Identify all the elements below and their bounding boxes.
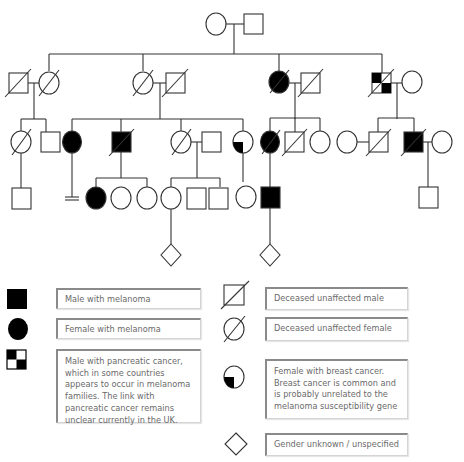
g4-5-female-unaffected [137, 187, 157, 209]
legend-label-female-melanoma: Female with melanoma [56, 318, 201, 339]
quarter-filled-circle-icon [222, 364, 248, 390]
filled-circle-icon [7, 317, 29, 341]
g2-8-female-unaffected [402, 71, 422, 93]
g4-1-male-unaffected [12, 188, 31, 209]
g4-7-male-unaffected [187, 188, 206, 209]
legend-label-breast-cancer: Female with breast cancer. Breast cancer… [265, 359, 408, 419]
g5-1-gender-unknown [161, 244, 181, 266]
g4-6-female-unaffected [161, 187, 181, 209]
g3-2-male-unaffected [41, 132, 60, 152]
generation-5 [161, 244, 280, 266]
checkered-square-icon [6, 349, 28, 371]
deceased-slash [133, 70, 153, 96]
legend-label-pancreatic-cancer: Male with pancreatic cancer, which in so… [56, 349, 201, 423]
legend-label-male-melanoma: Male with melanoma [56, 288, 201, 309]
generation-1 [206, 13, 263, 54]
g4-10-male-melanoma [261, 187, 280, 208]
g1-male-unaffected [244, 14, 263, 34]
g4-11-male-unaffected [419, 187, 438, 208]
legend-label-deceased-male: Deceased unaffected male [265, 287, 408, 310]
generation-3 [11, 129, 452, 187]
g3-10-female-unaffected [310, 131, 330, 153]
g3-14-female-unaffected [432, 131, 452, 153]
filled-square-icon [6, 288, 28, 310]
g4-8-male-unaffected [209, 188, 228, 209]
deceased-square-icon [220, 280, 250, 310]
g5-2-gender-unknown [260, 244, 280, 266]
g3-6-male-unaffected [202, 132, 221, 152]
g3-11-female-unaffected [337, 131, 357, 153]
g4-4-female-unaffected [111, 187, 131, 209]
g2-7-deceased-male-pancreatic [368, 69, 394, 97]
legend-label-deceased-female: Deceased unaffected female [265, 317, 408, 341]
diamond-icon [224, 432, 248, 456]
deceased-circle-icon [222, 315, 248, 343]
g3-3-female-melanoma [63, 131, 82, 153]
g4-3-female-melanoma [86, 187, 106, 209]
g4-9-female-unaffected [236, 186, 256, 208]
g3-7-female-breast-cancer [233, 131, 253, 153]
legend-label-gender-unknown: Gender unknown / unspecified [265, 433, 408, 456]
generation-2 [5, 69, 422, 119]
g1-female-unaffected [206, 13, 226, 35]
deceased-slash [39, 70, 59, 96]
